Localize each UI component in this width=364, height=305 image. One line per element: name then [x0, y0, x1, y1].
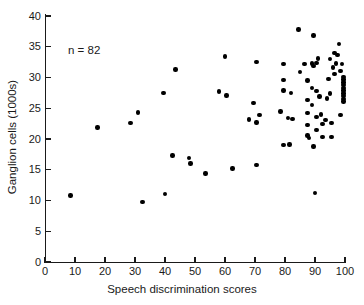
data-point	[257, 113, 261, 117]
data-point	[325, 96, 329, 100]
x-axis-tick-label: 60	[210, 266, 240, 277]
x-axis-tick-label: 30	[120, 266, 150, 277]
data-point	[323, 118, 327, 122]
data-point	[281, 62, 285, 66]
data-point	[247, 117, 251, 121]
y-axis-tick-label: 25	[19, 103, 41, 114]
data-point	[320, 135, 324, 139]
x-axis-tick-label: 40	[150, 266, 180, 277]
x-axis-tick-label: 90	[300, 266, 330, 277]
data-point	[188, 161, 192, 165]
data-point	[338, 113, 342, 117]
data-point	[313, 191, 317, 195]
data-point	[281, 78, 285, 82]
data-point	[314, 89, 318, 93]
data-point	[334, 61, 338, 65]
data-point	[305, 98, 309, 102]
data-point	[326, 77, 330, 81]
x-axis-tick-label: 80	[270, 266, 300, 277]
data-point	[140, 200, 144, 204]
data-point	[319, 112, 323, 116]
data-point	[224, 93, 228, 97]
data-point	[281, 88, 285, 92]
y-axis-title: Ganglion cells (1000s)	[6, 62, 18, 212]
y-axis-tick-label: 20	[19, 134, 41, 145]
data-point	[187, 156, 191, 160]
data-point	[341, 99, 345, 103]
data-point	[320, 122, 324, 126]
data-point	[317, 94, 321, 98]
data-point	[310, 103, 314, 107]
data-point	[95, 125, 99, 129]
x-axis-tick-label: 10	[60, 266, 90, 277]
data-point	[316, 56, 320, 60]
data-point	[161, 91, 165, 95]
data-point	[290, 117, 294, 121]
x-axis-title: Speech discrimination scores	[0, 283, 364, 295]
y-axis-tick-label: 30	[19, 72, 41, 83]
data-point	[338, 69, 342, 73]
data-point	[340, 62, 344, 66]
data-point	[281, 143, 285, 147]
data-point	[287, 142, 291, 146]
data-point	[328, 91, 332, 95]
y-axis-tick-label: 10	[19, 195, 41, 206]
data-point	[328, 57, 332, 61]
data-point	[68, 193, 72, 197]
data-point	[298, 70, 302, 74]
data-point	[331, 65, 335, 69]
x-axis-tick-label: 20	[90, 266, 120, 277]
data-point	[305, 78, 309, 82]
data-point	[305, 123, 309, 127]
data-point	[302, 62, 306, 66]
data-point	[254, 120, 258, 124]
data-point	[230, 166, 234, 170]
data-point	[337, 42, 341, 46]
data-point	[136, 110, 140, 114]
data-point	[307, 136, 311, 140]
data-point	[329, 121, 333, 125]
y-axis-tick-label: 35	[19, 41, 41, 52]
data-point	[311, 33, 315, 37]
scatter-plot-figure: 0510152025303540 0102030405060708090100 …	[0, 0, 364, 305]
data-point	[223, 54, 227, 58]
data-point	[163, 192, 167, 196]
data-point	[128, 121, 132, 125]
data-point	[170, 153, 174, 157]
data-point	[332, 72, 336, 76]
data-point	[254, 60, 258, 64]
data-point	[254, 163, 258, 167]
data-point	[335, 53, 339, 57]
data-point	[305, 111, 309, 115]
x-axis-tick-label: 0	[30, 266, 60, 277]
data-point	[314, 128, 318, 132]
data-point	[311, 144, 315, 148]
data-point	[314, 61, 318, 65]
data-point	[173, 67, 177, 71]
y-axis-tick-label: 40	[19, 11, 41, 22]
data-point	[289, 91, 293, 95]
data-point	[251, 101, 255, 105]
x-axis-tick-label: 100	[330, 266, 360, 277]
x-axis-tick-label: 50	[180, 266, 210, 277]
annotation-sample-size: n = 82	[68, 44, 100, 56]
data-point	[217, 89, 221, 93]
data-point	[296, 27, 300, 31]
data-point	[278, 109, 282, 113]
data-point	[203, 171, 207, 175]
y-axis-tick-label: 15	[19, 164, 41, 175]
y-axis-tick-label: 5	[19, 226, 41, 237]
x-axis-tick-label: 70	[240, 266, 270, 277]
data-point	[329, 135, 333, 139]
